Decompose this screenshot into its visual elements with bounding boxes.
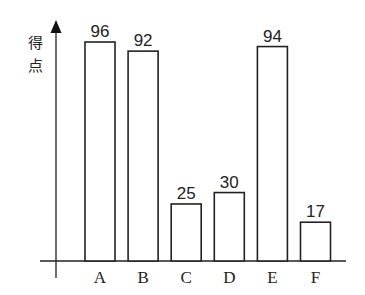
y-axis-label-char-2: 点 <box>28 57 43 75</box>
bar-c <box>171 204 201 261</box>
value-label-f: 17 <box>306 202 325 221</box>
category-label-c: C <box>181 268 192 287</box>
category-label-a: A <box>94 268 107 287</box>
category-label-f: F <box>311 268 320 287</box>
bar-chart: 得 点 96A92B25C30D94E17F <box>0 0 365 295</box>
y-axis-label-char-1: 得 <box>28 34 43 52</box>
bar-d <box>214 193 244 261</box>
bars-group: 96A92B25C30D94E17F <box>85 22 331 287</box>
category-label-e: E <box>267 268 277 287</box>
bar-e <box>257 47 287 261</box>
bar-a <box>85 42 115 261</box>
y-axis-arrow-icon <box>51 20 62 33</box>
value-label-b: 92 <box>134 31 153 50</box>
value-label-c: 25 <box>177 184 196 203</box>
value-label-e: 94 <box>263 27 282 46</box>
bar-b <box>128 51 158 261</box>
bar-f <box>301 222 331 261</box>
value-label-a: 96 <box>91 22 110 41</box>
category-label-b: B <box>137 268 148 287</box>
value-label-d: 30 <box>220 173 239 192</box>
category-label-d: D <box>223 268 235 287</box>
